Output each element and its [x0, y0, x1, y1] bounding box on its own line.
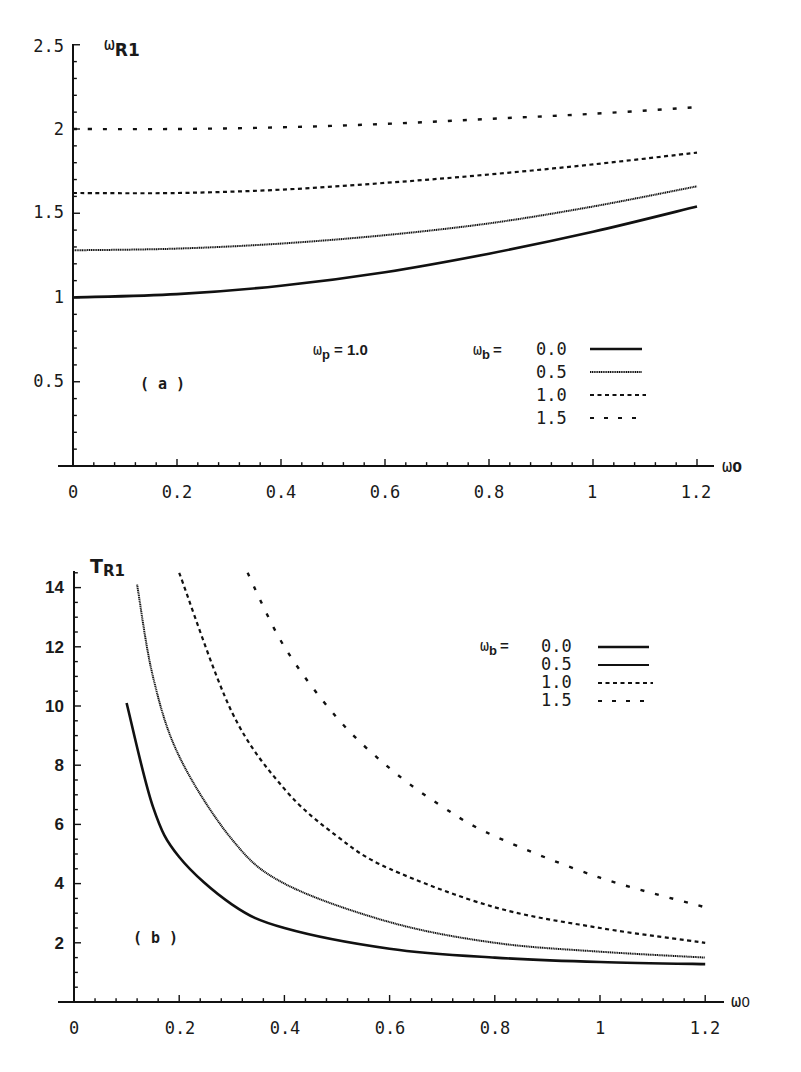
panel-a: 0.5 1 1.5 2 2.5 0 0.2 0.4 0.6 0.8 1 1.2 …: [33, 33, 742, 502]
y-tick-label: 10: [45, 697, 64, 716]
x-tick-label: 0.8: [480, 1018, 511, 1038]
y-tick-label: 0.5: [33, 371, 64, 391]
x-tick-label: 1.2: [690, 1018, 721, 1038]
y-tick-label: 8: [55, 756, 64, 775]
curve-wb-0-0: [73, 207, 697, 298]
x-tick-label: 0: [69, 1018, 79, 1038]
x-tick-label: 0.8: [474, 482, 505, 502]
x-minor-ticks-a: [94, 459, 697, 466]
y-axis-title-b: TR1: [90, 555, 125, 580]
legend-title: ωb=: [473, 341, 502, 362]
curve-wb-1-0: [179, 573, 705, 943]
curve-wb-0-5: [137, 585, 705, 958]
y-tick-label: 2.5: [33, 36, 64, 56]
legend-label: 1.5: [536, 408, 567, 428]
x-tick-label: 0.2: [165, 1018, 196, 1038]
x-tick-label: 0.6: [370, 482, 401, 502]
legend-a: ωb= 0.0 0.5 1.0 1.5: [473, 339, 646, 428]
param-label-wp: ωp= 1.0: [313, 341, 368, 362]
x-tick-label: 0.6: [375, 1018, 406, 1038]
curves-b: [127, 573, 706, 964]
y-tick-label: 1.5: [33, 202, 64, 222]
panel-b: 2 4 6 8 10 12 14 0 0.2 0.4 0.6 0.8 1 1.2…: [45, 555, 750, 1038]
x-tick-label: 0.4: [270, 1018, 301, 1038]
legend-b: ωb= 0.0 0.5 1.0 1.5: [480, 636, 653, 710]
curve-wb-0-0: [127, 703, 706, 964]
y-minor-ticks-a: [73, 45, 80, 449]
x-tick-label: 1: [587, 482, 597, 502]
curve-wb-0-5: [73, 186, 697, 250]
x-tick-label: 0.2: [162, 482, 193, 502]
figure: 0.5 1 1.5 2 2.5 0 0.2 0.4 0.6 0.8 1 1.2 …: [0, 0, 801, 1072]
legend-label: 0.0: [536, 339, 567, 359]
x-tick-label: 0.4: [266, 482, 297, 502]
y-minor-ticks-b: [74, 573, 81, 987]
y-tick-label: 14: [45, 578, 64, 597]
legend-label: 0.5: [541, 654, 572, 674]
x-minor-ticks-b: [95, 995, 705, 1002]
x-tick-label: 1.2: [681, 482, 712, 502]
legend-label: 1.5: [541, 690, 572, 710]
legend-title: ωb=: [480, 637, 509, 658]
x-axis-title-b: ω0: [731, 991, 750, 1011]
y-tick-label: 2: [54, 119, 64, 139]
x-tick-label: 0: [68, 482, 78, 502]
curve-wb-1-5: [248, 573, 706, 908]
panel-tag-b: ( b ): [133, 929, 178, 947]
x-tick-label: 1: [595, 1018, 605, 1038]
y-tick-label: 1: [54, 287, 64, 307]
curve-wb-1-0: [73, 153, 697, 194]
legend-label: 1.0: [541, 672, 572, 692]
curve-wb-1-5: [73, 107, 697, 129]
y-tick-label: 4: [55, 874, 65, 893]
legend-label: 0.5: [536, 362, 567, 382]
y-tick-label: 2: [55, 934, 64, 953]
curves-a: [73, 107, 697, 297]
y-tick-label: 6: [55, 815, 64, 834]
x-axis-title-a: ω0: [722, 456, 742, 476]
y-tick-label: 12: [45, 638, 64, 657]
legend-label: 0.0: [541, 636, 572, 656]
legend-label: 1.0: [536, 385, 567, 405]
panel-tag-a: ( a ): [140, 375, 185, 393]
y-axis-title-a: ωR1: [104, 33, 140, 60]
